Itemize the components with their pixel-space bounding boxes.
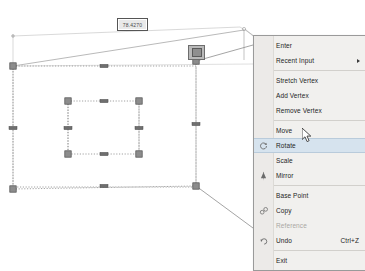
menu-item-shortcut: Ctrl+Z [333,237,359,244]
menu-item-base-point[interactable]: Base Point [254,188,365,203]
grip-square[interactable] [65,151,71,157]
menu-item-remove-vertex[interactable]: Remove Vertex [254,103,365,118]
rotate-icon [257,139,270,152]
menu-item-scale[interactable]: Scale [254,153,365,168]
grip-midpoint[interactable] [100,99,108,102]
grip-midpoint[interactable] [9,126,17,129]
grip-hover-highlight[interactable] [188,45,205,60]
menu-item-label: Copy [276,207,359,214]
undo-icon [257,234,270,247]
menu-item-copy[interactable]: Copy [254,203,365,218]
grip-midpoint[interactable] [100,184,108,187]
menu-item-reference: Reference [254,218,365,233]
menu-item-label: Rotate [276,142,359,149]
menu-item-exit[interactable]: Exit [254,253,365,268]
menu-item-stretch-vertex[interactable]: Stretch Vertex [254,73,365,88]
menu-item-enter[interactable]: Enter [254,38,365,53]
menu-separator [273,185,365,186]
dimension-value: 78.4270 [123,22,142,28]
grip-square[interactable] [136,98,142,104]
menu-item-add-vertex[interactable]: Add Vertex [254,88,365,103]
menu-item-label: Add Vertex [276,92,359,99]
menu-item-label: Move [276,127,359,134]
grip-square[interactable] [10,63,16,69]
menu-item-label: Exit [276,257,359,264]
grip-square[interactable] [193,183,199,189]
menu-item-label: Mirror [276,172,359,179]
right-click-context-menu[interactable]: EnterRecent InputStretch VertexAdd Verte… [253,35,365,271]
mirror-icon [257,169,270,182]
grip-square[interactable] [65,98,71,104]
menu-item-mirror[interactable]: Mirror [254,168,365,183]
menu-separator [273,250,365,251]
grip-midpoint[interactable] [64,126,72,129]
grip-midpoint[interactable] [135,126,143,129]
grip-square[interactable] [10,186,16,192]
grip-midpoint[interactable] [100,64,108,67]
grip-midpoint[interactable] [192,122,200,125]
menu-separator [273,70,365,71]
dimension-input[interactable]: 78.4270 [117,18,148,31]
mouse-pointer-cursor [302,128,314,144]
grip-hover-inner [192,48,202,57]
menu-item-label: Scale [276,157,359,164]
menu-item-label: Recent Input [276,57,359,64]
menu-item-label: Base Point [276,192,359,199]
grip-square[interactable] [136,151,142,157]
menu-item-label: Stretch Vertex [276,77,359,84]
menu-separator [273,120,365,121]
copy-icon [257,204,270,217]
menu-item-label: Enter [276,42,359,49]
menu-item-label: Reference [276,222,359,229]
menu-item-label: Undo [276,237,333,244]
menu-item-label: Remove Vertex [276,107,359,114]
menu-item-recent-input[interactable]: Recent Input [254,53,365,68]
grip-midpoint[interactable] [100,152,108,155]
menu-item-undo[interactable]: UndoCtrl+Z [254,233,365,248]
submenu-arrow-icon [357,59,360,63]
